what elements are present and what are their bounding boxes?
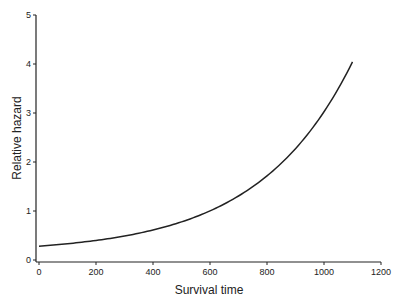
y-tick-label: 1	[26, 206, 31, 216]
x-tick-label: 200	[88, 267, 103, 277]
y-axis-label: Relative hazard	[10, 96, 24, 179]
y-tick-label: 4	[26, 59, 31, 69]
x-tick-label: 400	[145, 267, 160, 277]
x-axis-label: Survival time	[175, 283, 244, 297]
x-tick-label: 800	[259, 267, 274, 277]
y-tick-label: 0	[26, 255, 31, 265]
y-tick-label: 2	[26, 157, 31, 167]
plot-area	[39, 62, 353, 246]
x-tick-label: 600	[202, 267, 217, 277]
x-axis: 020040060080010001200	[36, 262, 391, 277]
x-tick-label: 0	[36, 267, 41, 277]
y-tick-label: 5	[26, 10, 31, 20]
line-chart: 012345 020040060080010001200 Survival ti…	[0, 0, 397, 301]
x-tick-label: 1200	[371, 267, 391, 277]
hazard-curve	[39, 62, 353, 246]
x-tick-label: 1000	[314, 267, 334, 277]
y-axis: 012345	[26, 10, 36, 265]
y-tick-label: 3	[26, 108, 31, 118]
